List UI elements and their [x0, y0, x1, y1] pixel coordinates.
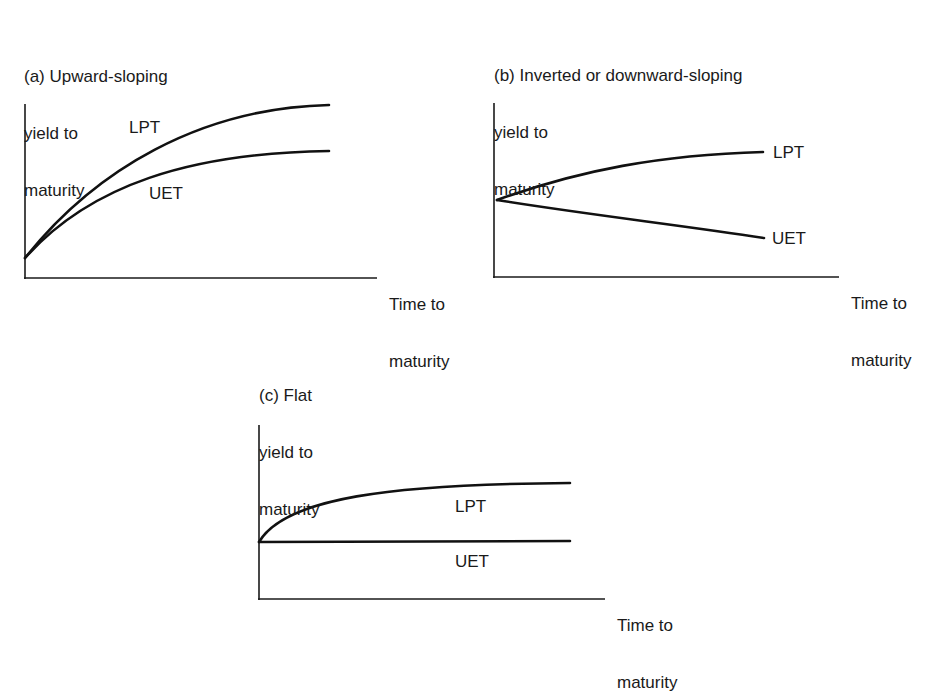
panel-b-xlabel-line2: maturity [851, 351, 911, 370]
panel-c-uet-label: UET [455, 552, 489, 571]
panel-a-title-line1: (a) Upward-sloping [24, 67, 168, 86]
panel-b-xlabel-line1: Time to [851, 294, 911, 313]
panel-c-title-line1: (c) Flat [259, 386, 319, 405]
panel-b-xlabel: Time to maturity [851, 256, 911, 389]
panel-b-uet-label: UET [772, 229, 806, 248]
panel-c-xlabel-line1: Time to [617, 616, 677, 635]
panel-a-xlabel-line1: Time to [389, 295, 449, 314]
panel-c-lpt-label: LPT [455, 497, 486, 516]
panel-a-title-line3: maturity [24, 181, 168, 200]
panel-b-title-line2: yield to [494, 123, 743, 142]
panel-a-xlabel-line2: maturity [389, 352, 449, 371]
panel-c-uet-curve [259, 541, 570, 542]
panel-c-title: (c) Flat yield to maturity [259, 348, 319, 538]
panel-a-uet-label: UET [149, 184, 183, 203]
panel-c-xlabel-line2: maturity [617, 673, 677, 692]
panel-c-xlabel: Time to maturity [617, 578, 677, 695]
panel-b-lpt-label: LPT [773, 143, 804, 162]
panel-b-title: (b) Inverted or downward-sloping yield t… [494, 28, 743, 218]
panel-a-lpt-label: LPT [129, 118, 160, 137]
panel-a-xlabel: Time to maturity [389, 257, 449, 390]
panel-b-title-line3: maturity [494, 180, 743, 199]
panel-c-title-line2: yield to [259, 443, 319, 462]
panel-c-title-line3: maturity [259, 500, 319, 519]
panel-b-title-line1: (b) Inverted or downward-sloping [494, 66, 743, 85]
